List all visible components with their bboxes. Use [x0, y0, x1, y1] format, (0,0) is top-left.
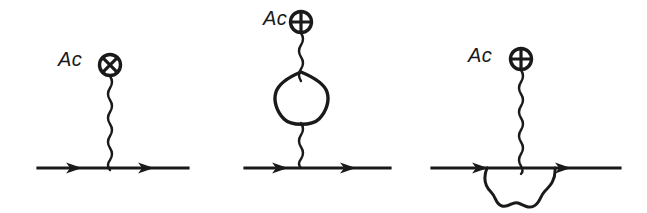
feynman-diagrams-svg	[0, 0, 647, 213]
photon-wavy-line	[108, 76, 112, 170]
diagram-pentagon-loop	[245, 12, 390, 174]
circled-cross-icon	[511, 49, 532, 70]
diagram-tree-level	[38, 55, 188, 174]
diagram-label-ac-1: Ac	[58, 48, 82, 71]
circled-cross-icon	[100, 55, 121, 76]
diagram-label-ac-3: Ac	[468, 44, 492, 67]
figure-canvas: Ac Ac Ac	[0, 0, 647, 213]
circled-cross-icon	[291, 12, 312, 33]
diagram-label-ac-2: Ac	[263, 7, 287, 30]
photon-wavy-line	[519, 70, 523, 174]
photon-wavy-line-lower	[299, 123, 303, 168]
diagram-self-energy	[432, 49, 620, 208]
